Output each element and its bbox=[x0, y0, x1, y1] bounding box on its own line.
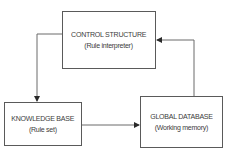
node-subtitle: (Working memory) bbox=[155, 122, 209, 133]
node-title: GLOBAL DATABASE bbox=[150, 111, 212, 122]
node-subtitle: (Rule set) bbox=[29, 124, 57, 135]
node-subtitle: (Rule interpreter) bbox=[85, 40, 133, 51]
diagram-canvas: CONTROL STRUCTURE (Rule interpreter) KNO… bbox=[0, 0, 237, 156]
node-title: CONTROL STRUCTURE bbox=[71, 29, 146, 40]
arrow-control-to-knowledge bbox=[37, 34, 62, 101]
knowledge-base-node: KNOWLEDGE BASE (Rule set) bbox=[4, 102, 82, 146]
global-database-node: GLOBAL DATABASE (Working memory) bbox=[140, 96, 223, 148]
control-structure-node: CONTROL STRUCTURE (Rule interpreter) bbox=[62, 11, 156, 69]
arrow-global-to-control bbox=[157, 40, 194, 96]
node-title: KNOWLEDGE BASE bbox=[12, 113, 75, 124]
